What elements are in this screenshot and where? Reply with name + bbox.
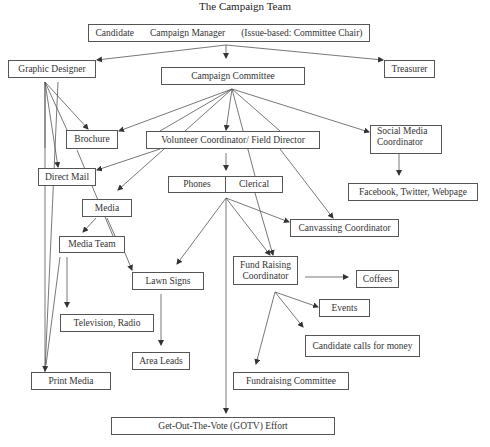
committee-chair-label: (Issue-based: Committee Chair) <box>241 28 362 39</box>
phones-label: Phones <box>169 179 225 190</box>
graphic-designer-box[interactable]: Graphic Designer <box>8 60 96 78</box>
fund-raising-line2: Coordinator <box>243 271 289 282</box>
brochure-box[interactable]: Brochure <box>66 130 118 149</box>
media-box[interactable]: Media <box>82 199 132 217</box>
candidate-calls-box[interactable]: Candidate calls for money <box>305 335 420 357</box>
clerical-label: Clerical <box>226 179 282 190</box>
social-media-line2: Coordinator <box>377 137 423 148</box>
social-channels-box[interactable]: Facebook, Twitter, Webpage <box>348 183 478 201</box>
fund-raising-coordinator-box[interactable]: Fund Raising Coordinator <box>233 256 298 285</box>
social-media-coordinator-box[interactable]: Social Media Coordinator <box>370 125 442 154</box>
direct-mail-box[interactable]: Direct Mail <box>38 168 96 186</box>
area-leads-box[interactable]: Area Leads <box>132 352 190 370</box>
candidate-label: Candidate <box>95 28 134 39</box>
social-media-line1: Social Media <box>377 126 427 137</box>
fund-raising-line1: Fund Raising <box>240 260 291 271</box>
gotv-effort-box[interactable]: Get-Out-The-Vote (GOTV) Effort <box>111 417 335 435</box>
television-radio-box[interactable]: Television, Radio <box>60 314 154 332</box>
canvassing-coordinator-box[interactable]: Canvassing Coordinator <box>290 219 399 237</box>
phones-clerical-box[interactable]: Phones Clerical <box>168 176 283 193</box>
campaign-committee-box[interactable]: Campaign Committee <box>161 67 305 85</box>
campaign-leadership-box[interactable]: Candidate Campaign Manager (Issue-based:… <box>88 24 370 42</box>
lawn-signs-box[interactable]: Lawn Signs <box>132 272 204 290</box>
print-media-box[interactable]: Print Media <box>31 372 111 390</box>
events-box[interactable]: Events <box>319 299 370 317</box>
campaign-manager-label: Campaign Manager <box>150 28 225 39</box>
coffees-box[interactable]: Coffees <box>356 270 399 288</box>
volunteer-coordinator-box[interactable]: Volunteer Coordinator/ Field Director <box>146 131 320 149</box>
diagram-title: The Campaign Team <box>0 0 490 12</box>
media-team-box[interactable]: Media Team <box>59 236 125 253</box>
treasurer-box[interactable]: Treasurer <box>384 60 435 78</box>
fundraising-committee-box[interactable]: Fundraising Committee <box>233 372 349 390</box>
